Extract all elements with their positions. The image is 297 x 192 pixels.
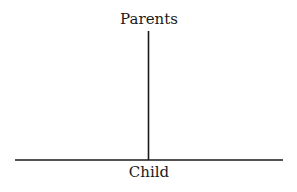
child-label: Child bbox=[129, 165, 169, 180]
